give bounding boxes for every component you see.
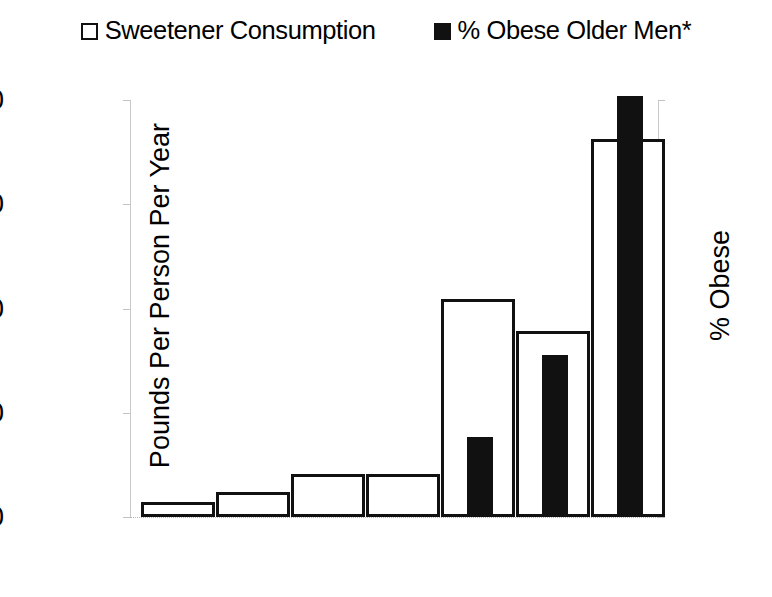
left-tick-40 <box>123 413 130 414</box>
bar-sweetener-1800[interactable] <box>291 474 365 517</box>
legend-item-sweetener-consumption: Sweetener Consumption <box>81 16 376 45</box>
right-tick-0 <box>658 517 665 518</box>
left-tick-label-80: 80 <box>0 296 4 323</box>
left-tick-label-40: 40 <box>0 400 4 427</box>
sweetener-obesity-bar-chart: Sweetener Consumption % Obese Older Men*… <box>0 0 772 597</box>
bar-sweetener-1700[interactable] <box>141 502 215 517</box>
left-tick-label-160: 160 <box>0 87 4 114</box>
left-tick-120 <box>123 204 130 205</box>
bar-obese-1950[interactable] <box>542 355 568 517</box>
bar-sweetener-1750[interactable] <box>216 492 290 517</box>
right-axis-title: % Obese <box>705 156 736 416</box>
right-tick-40 <box>658 100 665 101</box>
legend-item-obese-older-men: % Obese Older Men* <box>434 16 692 45</box>
left-tick-160 <box>123 100 130 101</box>
x-axis-baseline <box>130 517 658 518</box>
legend-label-obese-older-men: % Obese Older Men* <box>458 16 692 45</box>
hollow-square-icon <box>81 23 98 40</box>
left-tick-80 <box>123 309 130 310</box>
bar-obese-2000[interactable] <box>617 96 643 517</box>
left-tick-label-0: 0 <box>0 504 4 531</box>
bar-group-container <box>130 100 658 517</box>
chart-legend: Sweetener Consumption % Obese Older Men* <box>0 16 772 45</box>
bar-obese-1900[interactable] <box>467 437 493 517</box>
left-tick-label-120: 120 <box>0 191 4 218</box>
plot-area: 0 40 80 120 160 0 10 20 30 40 Pounds Per… <box>130 100 658 517</box>
legend-label-sweetener-consumption: Sweetener Consumption <box>105 16 376 45</box>
bar-sweetener-1850[interactable] <box>366 474 440 517</box>
filled-square-icon <box>434 23 451 40</box>
left-tick-0 <box>123 517 130 518</box>
